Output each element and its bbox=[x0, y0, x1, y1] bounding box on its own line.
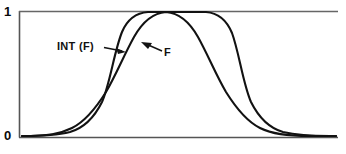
y-axis-tick-label-max: 1 bbox=[4, 5, 11, 18]
curve-label-int-f: INT (F) bbox=[57, 41, 94, 52]
figure-container: 1 0 INT (F) F bbox=[0, 0, 346, 154]
arrow-head-int-f bbox=[116, 48, 126, 54]
curve-label-f: F bbox=[164, 47, 171, 58]
annotation-arrow-f bbox=[141, 42, 162, 51]
curve-int-f bbox=[22, 12, 336, 136]
y-axis-tick-label-min: 0 bbox=[4, 129, 11, 142]
plot-canvas bbox=[0, 0, 346, 154]
plot-frame bbox=[19, 11, 338, 138]
curve-f bbox=[22, 12, 336, 136]
